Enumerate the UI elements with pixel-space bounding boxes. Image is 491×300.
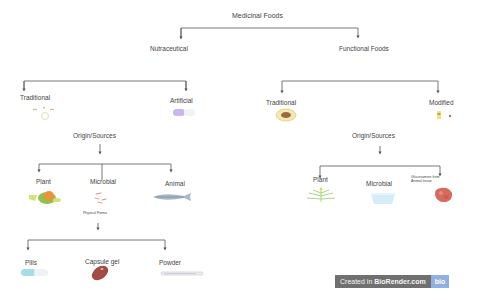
physical-forms-label: Physical Forms xyxy=(83,211,107,215)
nutra-plant-label: Plant xyxy=(36,178,51,185)
func-glucosamine-label: Glucosamine from Animal tissue xyxy=(411,175,439,183)
biorender-logo-icon: bio xyxy=(431,275,450,288)
nutra-traditional-label: Traditional xyxy=(20,94,50,101)
nutra-origin-label: Origin/Sources xyxy=(73,132,116,139)
avocado-icon xyxy=(275,108,297,122)
func-modified-label: Modified xyxy=(429,99,454,106)
plant-sprout-icon xyxy=(305,186,337,204)
watermark-text: Created in BioRender.com xyxy=(335,275,431,288)
capsule-pill-icon xyxy=(172,108,198,118)
biorender-watermark[interactable]: Created in BioRender.com bio xyxy=(335,275,449,288)
tissue-icon xyxy=(432,186,454,204)
herb-leaves-icon xyxy=(30,105,60,121)
nutraceutical-label: Nutraceutical xyxy=(150,45,188,52)
nutra-microbial-label: Microbial xyxy=(90,178,116,185)
plant-fruit-icon xyxy=(27,189,63,205)
root-label: Medicinal Foods xyxy=(232,12,283,19)
bottle-icon xyxy=(436,110,456,122)
fish-icon xyxy=(152,192,194,202)
powder-label: Powder xyxy=(159,259,181,266)
pill-capsule-icon xyxy=(20,268,50,278)
bacteria-icon xyxy=(92,191,112,205)
func-traditional-label: Traditional xyxy=(266,99,296,106)
func-origin-label: Origin/Sources xyxy=(352,132,395,139)
func-microbial-label: Microbial xyxy=(366,180,392,187)
connector-lines xyxy=(0,0,491,300)
gel-capsule-icon xyxy=(90,264,110,282)
func-plant-label: Plant xyxy=(313,176,328,183)
nutra-artificial-label: Artificial xyxy=(170,97,193,104)
functional-foods-label: Functional Foods xyxy=(339,45,389,52)
pills-label: Pills xyxy=(25,259,37,266)
powder-spatula-icon xyxy=(160,271,205,277)
nutra-animal-label: Animal xyxy=(165,180,185,187)
petri-dish-icon xyxy=(370,192,396,206)
